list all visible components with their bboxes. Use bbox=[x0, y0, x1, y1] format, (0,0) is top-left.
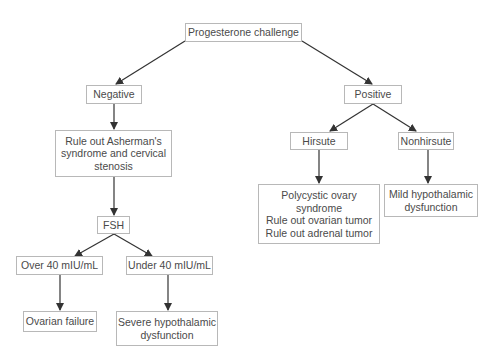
edge-layer bbox=[0, 0, 494, 361]
node-positive: Positive bbox=[344, 85, 402, 104]
node-rule-out-asherman: Rule out Asherman's syndrome and cervica… bbox=[55, 130, 172, 177]
node-label: dysfunction bbox=[404, 201, 457, 214]
node-fsh: FSH bbox=[97, 216, 130, 234]
node-label: Over 40 mIU/mL bbox=[21, 259, 98, 272]
node-label: Rule out Asherman's bbox=[65, 135, 162, 148]
node-polycystic-ovary-syndrome: Polycystic ovary syndrome Rule out ovari… bbox=[258, 184, 380, 244]
arrow-positive-nonhirsute bbox=[373, 104, 416, 131]
arrow-positive-hirsute bbox=[330, 104, 373, 131]
node-label: syndrome and cervical bbox=[61, 147, 166, 160]
node-label: Polycystic ovary bbox=[281, 189, 356, 202]
node-label: FSH bbox=[103, 219, 124, 232]
node-label: stenosis bbox=[94, 160, 133, 173]
arrow-root-negative bbox=[116, 41, 185, 84]
node-negative: Negative bbox=[86, 85, 142, 104]
node-label: Mild hypothalamic bbox=[389, 188, 473, 201]
node-label: Under 40 mIU/mL bbox=[128, 259, 211, 272]
arrow-fsh-over40 bbox=[75, 234, 114, 256]
node-nonhirsute: Nonhirsute bbox=[398, 132, 454, 150]
arrow-fsh-under40 bbox=[114, 234, 152, 256]
node-label: Rule out ovarian tumor bbox=[266, 214, 372, 227]
node-label: dysfunction bbox=[140, 329, 193, 342]
node-label: Ovarian failure bbox=[26, 315, 94, 328]
node-label: syndrome bbox=[296, 202, 342, 215]
node-label: Severe hypothalamic bbox=[118, 316, 216, 329]
node-label: Nonhirsute bbox=[401, 135, 452, 148]
node-severe-hypothalamic-dysfunction: Severe hypothalamic dysfunction bbox=[116, 311, 218, 346]
node-label: Progesterone challenge bbox=[188, 26, 299, 39]
arrow-root-positive bbox=[302, 41, 372, 84]
node-mild-hypothalamic-dysfunction: Mild hypothalamic dysfunction bbox=[384, 184, 478, 217]
node-label: Rule out adrenal tumor bbox=[266, 227, 373, 240]
node-progesterone-challenge: Progesterone challenge bbox=[185, 23, 302, 42]
node-hirsute: Hirsute bbox=[290, 132, 348, 150]
node-ovarian-failure: Ovarian failure bbox=[23, 311, 97, 332]
node-over-40: Over 40 mIU/mL bbox=[16, 256, 103, 275]
node-label: Negative bbox=[93, 88, 134, 101]
node-label: Positive bbox=[355, 88, 392, 101]
node-label: Hirsute bbox=[302, 135, 335, 148]
node-under-40: Under 40 mIU/mL bbox=[126, 256, 213, 275]
